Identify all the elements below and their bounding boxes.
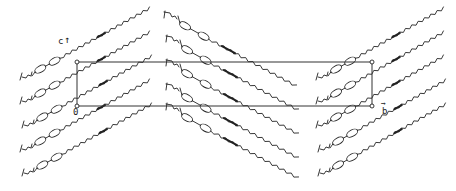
ring-icon (178, 20, 192, 31)
ring-icon (50, 151, 64, 162)
unit-cell-outline (77, 62, 372, 106)
c-axis-label: c (58, 36, 63, 46)
ring-icon (180, 68, 194, 79)
ring-icon (36, 159, 50, 170)
middle-layer (164, 11, 299, 177)
ring-icon (329, 111, 343, 122)
ring-icon (199, 122, 213, 133)
ring-icon (343, 103, 357, 114)
ring-icon (48, 127, 62, 138)
cell-corner-icon (370, 60, 374, 64)
ring-icon (345, 151, 359, 162)
ring-icon (329, 63, 343, 74)
ring-icon (343, 79, 357, 90)
cell-corner-icon (370, 104, 374, 108)
ring-icon (48, 55, 62, 66)
ring-icon (180, 92, 194, 103)
ring-icon (199, 102, 213, 113)
ring-icon (48, 79, 62, 90)
b-axis-arrow-icon: → (381, 99, 386, 108)
ring-icon (34, 87, 48, 98)
ring-icon (331, 159, 345, 170)
ring-icon (180, 112, 194, 123)
ring-icon (199, 54, 213, 65)
left-layer (20, 7, 151, 176)
packing-diagram-svg (0, 0, 456, 191)
origin-label: 0 (73, 107, 78, 117)
ring-icon (343, 55, 357, 66)
cell-corner-icon (75, 60, 79, 64)
ring-icon (199, 78, 213, 89)
molecule-layers (20, 7, 445, 177)
molecule (316, 7, 443, 80)
ring-icon (34, 135, 48, 146)
ring-icon (345, 127, 359, 138)
ring-icon (331, 135, 345, 146)
c-axis-arrow-icon: ↑ (64, 34, 70, 45)
crystal-packing-figure: c ↑ 0 b → (0, 0, 456, 191)
molecule (166, 103, 299, 177)
ring-icon (36, 111, 50, 122)
ring-icon (197, 30, 211, 41)
ring-icon (180, 44, 194, 55)
ring-icon (34, 63, 48, 74)
unit-cell (75, 60, 374, 108)
right-layer (316, 7, 445, 176)
ring-icon (329, 87, 343, 98)
ring-icon (50, 103, 64, 114)
